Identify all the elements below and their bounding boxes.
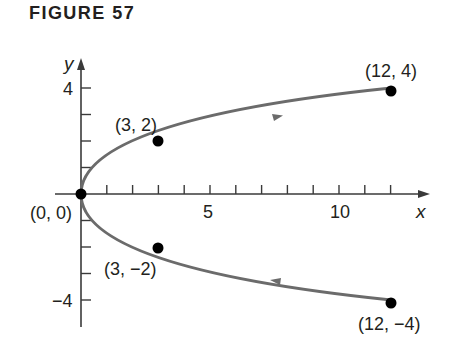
tick-label-x10: 10 (330, 202, 350, 222)
tick-label-yneg4: −4 (52, 291, 73, 311)
right-arrow-icon (272, 114, 283, 121)
point-origin (76, 189, 87, 200)
point-label-3-neg2: (3, −2) (104, 259, 157, 279)
point-label-origin: (0, 0) (30, 203, 72, 223)
upper-branch-curve (81, 88, 391, 194)
x-axis-arrow-icon (418, 190, 430, 198)
point-12-neg4 (386, 298, 397, 309)
axes (55, 66, 422, 327)
point-12-4 (386, 86, 397, 97)
y-axis-label: y (62, 53, 75, 74)
point-label-3-2: (3, 2) (115, 115, 157, 135)
point-label-12-4: (12, 4) (365, 61, 417, 81)
tick-label-y4: 4 (63, 79, 73, 99)
point-label-12-neg4: (12, −4) (358, 314, 421, 334)
y-axis-arrow-icon (77, 58, 85, 70)
parabola-chart: y x 5 10 4 −4 (0, 0) (3, 2) (12, 4) (3, … (0, 0, 456, 349)
x-ticks (107, 185, 391, 194)
point-3-neg2 (153, 243, 164, 254)
x-axis-label: x (415, 201, 427, 222)
tick-label-x5: 5 (203, 202, 213, 222)
point-3-2 (153, 136, 164, 147)
